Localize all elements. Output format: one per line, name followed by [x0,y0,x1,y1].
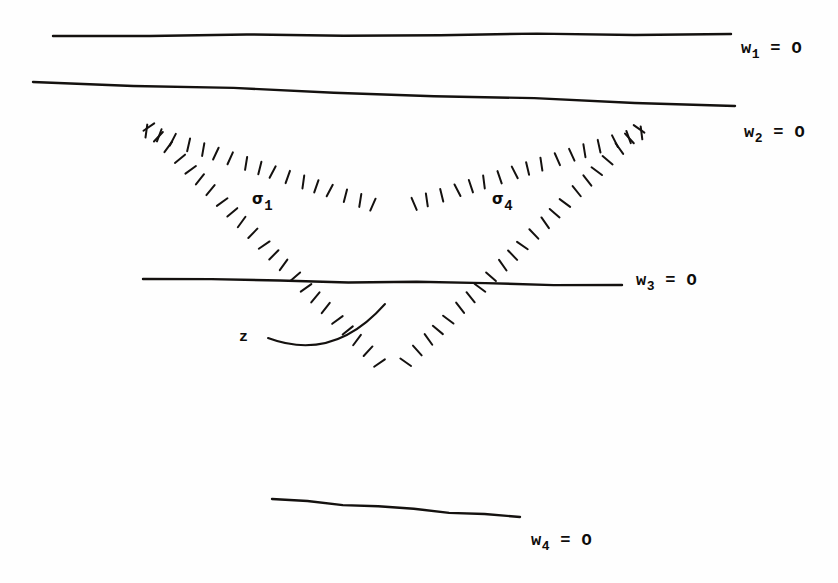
hatch-tick [248,229,257,238]
w3-line [143,279,622,285]
hatch-tick [541,217,548,228]
hatch-sigma1-lower [143,123,384,366]
hatch-tick [238,217,246,228]
hatch-tick [322,303,330,313]
hatch-tick [603,156,613,164]
hatch-tick [469,180,473,192]
hatch-tick [302,176,304,189]
hatch-tick [433,326,443,334]
hatch-tick [187,139,190,152]
hatch-tick [258,162,261,175]
hatch-tick [508,251,517,260]
hatch-tick [143,123,154,130]
hatch-tick [425,334,433,345]
hatch-tick [353,335,361,345]
hatch-tick [583,175,591,185]
hatch-tick [499,260,506,271]
hatch-tick [573,186,581,196]
hatch-tick [196,174,204,184]
hatch-tick [486,273,496,282]
hatch-tick [311,292,319,302]
hyperplane-lines [33,34,735,517]
hatch-tick [512,167,518,179]
hatch-tick [145,125,147,138]
hatch-sigma4-lower [400,125,644,366]
label-w4: w4 = O [531,532,592,553]
hatch-tick [555,153,560,165]
label-sigma1: σ1 [252,192,273,213]
hatch-tick [497,171,501,183]
hatch-tick [550,209,560,218]
hatch-tick [286,171,290,183]
hatch-tick [344,189,347,202]
hatch-tick [529,229,538,238]
hatch-tick [540,158,542,171]
label-sigma4: σ4 [492,192,513,213]
hatch-tick [364,346,373,356]
hatch-tick [217,198,228,206]
hatch-tick [400,359,411,366]
hatch-tick [583,144,585,157]
label-z: z [239,330,249,345]
hatch-tick [259,241,270,248]
hatch-marks-group [143,123,644,366]
w1-line [53,34,731,36]
hatch-tick [213,148,219,160]
hatch-tick [455,185,461,197]
diagram-svg [0,0,838,583]
hatch-tick [517,242,528,249]
hatch-tick [228,152,233,164]
hatch-tick [413,346,422,356]
hatch-tick [475,284,486,292]
hatch-tick [641,126,643,139]
hatch-tick [616,143,624,154]
hatch-tick [598,140,601,153]
hatch-tick [374,359,385,366]
label-w2: w2 = O [744,124,805,145]
hatch-tick [456,303,464,313]
hatch-tick [301,284,312,292]
hatch-tick [314,180,318,192]
hatch-tick [290,272,300,280]
hatch-tick [560,199,570,207]
hatch-tick [164,142,172,152]
hatch-tick [175,155,185,163]
hatch-tick [359,194,361,207]
hatch-tick [280,260,288,271]
hatch-tick [412,198,417,210]
hatch-tick [443,316,453,324]
label-w1: w1 = O [741,40,802,61]
hatch-tick [426,193,428,206]
hatch-sigma4-upper [412,126,643,209]
z-arrow-curve [268,304,385,345]
hatch-tick [327,185,333,196]
hatch-tick [634,125,645,132]
hatch-tick [332,316,342,324]
hatch-tick [526,162,529,175]
hatch-tick [269,250,278,259]
hatch-tick [440,189,443,202]
hatch-tick [370,199,375,211]
label-w3: w3 = O [636,272,697,293]
hatch-tick [202,143,204,156]
hatch-tick [569,149,574,161]
hatch-tick [467,292,475,302]
hatch-tick [270,166,276,178]
z-pointer-arrow [268,304,385,345]
w4-line [272,499,520,517]
hatch-tick [206,185,214,195]
hatch-tick [483,176,485,189]
hatch-tick [227,208,237,216]
hatch-tick [592,167,602,175]
hatch-tick [245,157,247,170]
hatch-tick [185,166,196,174]
figure-canvas: w1 = O w2 = O w3 = O w4 = O σ1 σ4 z [0,0,838,583]
w2-line [33,82,735,106]
